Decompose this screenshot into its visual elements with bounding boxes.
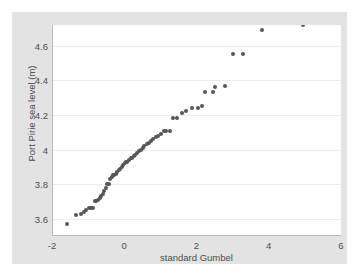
y-gridline	[53, 46, 341, 47]
figure-canvas: 3.63.844.24.44.6 -20246 Port Pirie sea l…	[12, 12, 347, 264]
y-gridline	[53, 150, 341, 151]
y-tick-label: 4.6	[35, 40, 48, 51]
scatter-point	[211, 90, 215, 94]
x-axis-title: standard Gumbel	[52, 252, 341, 263]
scatter-point	[200, 104, 204, 108]
y-tick-label: 3.8	[35, 179, 48, 190]
plot-area	[53, 25, 341, 235]
y-axis-title: Port Pirie sea level (m)	[26, 19, 37, 209]
y-gridline	[53, 80, 341, 81]
x-tick-label: -2	[48, 240, 56, 251]
scatter-point	[190, 106, 194, 110]
scatter-point	[168, 129, 172, 133]
scatter-point	[301, 25, 305, 27]
y-gridline	[53, 219, 341, 220]
y-gridline	[53, 115, 341, 116]
scatter-point	[102, 189, 106, 193]
scatter-point	[180, 111, 184, 115]
scatter-point	[203, 90, 207, 94]
scatter-point	[223, 84, 227, 88]
y-tick-label: 3.6	[35, 213, 48, 224]
y-tick-label: 4	[43, 144, 48, 155]
scatter-point	[184, 109, 188, 113]
scatter-point	[213, 85, 217, 89]
x-tick-label: 4	[266, 240, 271, 251]
scatter-point	[241, 52, 245, 56]
scatter-point	[74, 213, 78, 217]
scatter-point	[101, 192, 105, 196]
scatter-point	[159, 132, 163, 136]
y-gridline	[53, 184, 341, 185]
scatter-point	[175, 116, 179, 120]
scatter-point	[104, 186, 108, 190]
plot-frame	[52, 25, 341, 236]
x-tick-label: 6	[338, 240, 343, 251]
scatter-point	[231, 52, 235, 56]
x-tick-label: 0	[122, 240, 127, 251]
scatter-point	[107, 182, 111, 186]
scatter-point	[65, 222, 69, 226]
scatter-point	[260, 28, 264, 32]
x-tick-label: 2	[194, 240, 199, 251]
y-tick-label: 4.2	[35, 109, 48, 120]
scatter-point	[91, 206, 95, 210]
y-tick-label: 4.4	[35, 75, 48, 86]
